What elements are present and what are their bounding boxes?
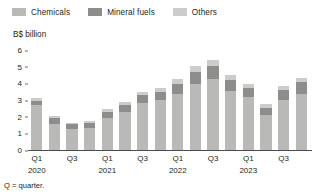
legend-item-label: Others [192, 8, 217, 17]
bar-segment [102, 118, 113, 150]
y-axis-tick-label: 0 [18, 146, 28, 155]
bar-segment [31, 105, 42, 150]
bar-stack[interactable] [225, 75, 236, 150]
x-axis-quarter-label: Q3 [67, 154, 78, 163]
legend-swatch-icon [88, 8, 102, 16]
bar-stack[interactable] [155, 88, 166, 151]
bar-segment [119, 105, 130, 112]
bar-segment [207, 66, 218, 79]
bar-stack[interactable] [260, 104, 271, 150]
bar-stack[interactable] [243, 84, 254, 150]
y-axis-tick-label: 3 [18, 96, 28, 105]
legend-item-label: Mineral fuels [107, 8, 155, 17]
bar-segment [119, 112, 130, 150]
bar-stack[interactable] [278, 86, 289, 150]
y-axis-tick-label: 5 [18, 62, 28, 71]
chart-footnote: Q = quarter. [4, 181, 44, 190]
x-axis-year-label: 2022 [169, 166, 187, 175]
bar-stack[interactable] [31, 98, 42, 150]
x-axis-quarter-label: Q3 [278, 154, 289, 163]
y-axis-title: B$ billion [13, 30, 46, 39]
plot-area: 0123456 [28, 50, 310, 150]
legend-item-label: Chemicals [31, 8, 70, 17]
y-axis-tick-label: 4 [18, 79, 28, 88]
bar-segment [190, 72, 201, 84]
bar-stack[interactable] [84, 121, 95, 150]
x-axis-quarter-label: Q1 [172, 154, 183, 163]
bar-segment [172, 84, 183, 94]
x-axis-quarter-label: Q3 [208, 154, 219, 163]
bar-segment [278, 90, 289, 100]
bar-segment [84, 128, 95, 150]
legend-swatch-icon [173, 8, 187, 16]
bar-stack[interactable] [66, 123, 77, 151]
bar-segment [49, 124, 60, 150]
legend-item[interactable]: Chemicals [12, 8, 70, 17]
bar-stack[interactable] [119, 102, 130, 150]
y-axis-tick-label: 6 [18, 46, 28, 55]
bar-segment [243, 97, 254, 150]
bar-segment [155, 100, 166, 150]
bar-stack[interactable] [137, 92, 148, 150]
legend-item[interactable]: Mineral fuels [88, 8, 155, 17]
x-axis-quarter-label: Q3 [137, 154, 148, 163]
chart-container: ChemicalsMineral fuelsOthers B$ billion … [0, 0, 322, 196]
bar-segment [207, 79, 218, 150]
x-axis-year-label: 2021 [98, 166, 116, 175]
bar-segment [260, 108, 271, 115]
legend-swatch-icon [12, 8, 26, 16]
y-axis-tick-label: 2 [18, 112, 28, 121]
x-axis-year-label: 2023 [239, 166, 257, 175]
bar-segment [190, 84, 201, 150]
bar-stack[interactable] [190, 66, 201, 150]
chart-legend: ChemicalsMineral fuelsOthers [0, 0, 322, 24]
x-axis-quarter-label: Q1 [31, 154, 42, 163]
bar-stack[interactable] [102, 109, 113, 150]
bar-segment [225, 91, 236, 150]
bar-segment [260, 115, 271, 150]
bar-series-group [28, 50, 310, 150]
bar-stack[interactable] [49, 116, 60, 150]
x-axis-quarter-label: Q1 [243, 154, 254, 163]
x-axis-year-label: 2020 [28, 166, 46, 175]
legend-item[interactable]: Others [173, 8, 217, 17]
bar-segment [296, 94, 307, 150]
bar-stack[interactable] [207, 60, 218, 150]
bar-segment [137, 103, 148, 150]
x-axis-labels: Q12020Q3Q12021Q3Q12022Q3Q12023Q3 [28, 151, 310, 185]
bar-segment [155, 92, 166, 100]
bar-segment [172, 94, 183, 150]
bar-segment [243, 88, 254, 96]
bar-segment [225, 80, 236, 91]
x-axis-quarter-label: Q1 [102, 154, 113, 163]
bar-segment [66, 129, 77, 150]
bar-segment [296, 82, 307, 95]
bar-stack[interactable] [172, 79, 183, 150]
y-axis-tick-label: 1 [18, 129, 28, 138]
bar-segment [278, 100, 289, 150]
bar-stack[interactable] [296, 78, 307, 151]
bar-segment [137, 95, 148, 102]
